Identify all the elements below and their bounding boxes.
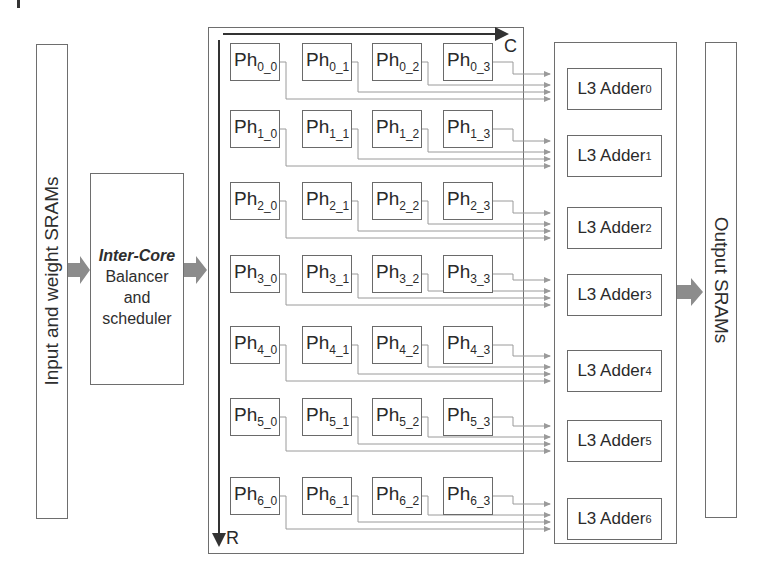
balancer-line2: and xyxy=(90,287,184,308)
ph-cell-prefix: Ph xyxy=(376,188,399,209)
l3-adder-1: L3 Adder1 xyxy=(567,135,662,177)
ph-cell-prefix: Ph xyxy=(447,116,470,137)
ph-cell-prefix: Ph xyxy=(306,332,329,353)
ph-cell-prefix: Ph xyxy=(447,483,470,504)
balancer-line3: scheduler xyxy=(90,308,184,329)
ph-cell-index: 4_1 xyxy=(329,343,349,357)
ph-cell-index: 5_2 xyxy=(399,415,419,429)
ph-cell-index: 5_3 xyxy=(470,415,490,429)
ph-cell-index: 3_0 xyxy=(257,272,277,286)
ph-cell-6-2: Ph6_2 xyxy=(372,477,422,515)
l3-adder-2: L3 Adder2 xyxy=(567,207,662,249)
ph-cell-index: 6_2 xyxy=(399,494,419,508)
arrow-adders-to-output xyxy=(677,278,703,306)
input-sram-label: Input and weight SRAMs xyxy=(41,176,63,385)
ph-cell-3-0: Ph3_0 xyxy=(230,255,280,293)
l3-adder-5: L3 Adder5 xyxy=(567,420,662,462)
ph-cell-0-2: Ph0_2 xyxy=(372,43,422,81)
ph-cell-index: 2_1 xyxy=(329,199,349,213)
ph-cell-index: 4_0 xyxy=(257,343,277,357)
ph-cell-prefix: Ph xyxy=(234,261,257,282)
column-axis-label: C xyxy=(504,36,517,57)
adder-index: 2 xyxy=(645,222,651,234)
ph-cell-6-1: Ph6_1 xyxy=(302,477,352,515)
adder-label: L3 Adder xyxy=(577,285,645,305)
ph-cell-prefix: Ph xyxy=(447,49,470,70)
ph-cell-3-1: Ph3_1 xyxy=(302,255,352,293)
output-sram-label: Output SRAMs xyxy=(710,217,732,344)
ph-cell-index: 1_2 xyxy=(399,127,419,141)
ph-cell-prefix: Ph xyxy=(376,49,399,70)
ph-cell-1-1: Ph1_1 xyxy=(302,110,352,148)
ph-cell-prefix: Ph xyxy=(234,188,257,209)
ph-cell-index: 0_0 xyxy=(257,60,277,74)
ph-cell-index: 6_3 xyxy=(470,494,490,508)
ph-cell-prefix: Ph xyxy=(376,404,399,425)
ph-cell-2-0: Ph2_0 xyxy=(230,182,280,220)
adder-index: 3 xyxy=(645,289,651,301)
l3-adder-6: L3 Adder6 xyxy=(567,498,662,540)
corner-mark xyxy=(17,0,20,8)
ph-cell-prefix: Ph xyxy=(234,49,257,70)
ph-cell-prefix: Ph xyxy=(376,261,399,282)
ph-cell-prefix: Ph xyxy=(306,49,329,70)
ph-cell-prefix: Ph xyxy=(447,261,470,282)
ph-cell-index: 2_2 xyxy=(399,199,419,213)
ph-cell-index: 2_0 xyxy=(257,199,277,213)
ph-cell-prefix: Ph xyxy=(234,332,257,353)
ph-cell-prefix: Ph xyxy=(376,116,399,137)
ph-cell-prefix: Ph xyxy=(234,404,257,425)
ph-cell-index: 1_0 xyxy=(257,127,277,141)
ph-cell-index: 0_2 xyxy=(399,60,419,74)
balancer-label: Inter-Core Balancer and scheduler xyxy=(90,245,184,329)
ph-cell-4-2: Ph4_2 xyxy=(372,326,422,364)
arrow-input-to-balancer xyxy=(68,256,90,284)
ph-cell-0-0: Ph0_0 xyxy=(230,43,280,81)
ph-cell-prefix: Ph xyxy=(447,404,470,425)
ph-cell-2-2: Ph2_2 xyxy=(372,182,422,220)
ph-cell-index: 2_3 xyxy=(470,199,490,213)
ph-cell-0-1: Ph0_1 xyxy=(302,43,352,81)
adder-label: L3 Adder xyxy=(577,146,645,166)
ph-cell-5-3: Ph5_3 xyxy=(443,398,493,436)
ph-cell-index: 6_0 xyxy=(257,494,277,508)
ph-cell-prefix: Ph xyxy=(306,188,329,209)
ph-cell-index: 3_3 xyxy=(470,272,490,286)
ph-cell-index: 3_2 xyxy=(399,272,419,286)
adder-label: L3 Adder xyxy=(577,361,645,381)
balancer-title: Inter-Core xyxy=(90,245,184,266)
ph-cell-index: 4_2 xyxy=(399,343,419,357)
ph-cell-index: 0_1 xyxy=(329,60,349,74)
ph-cell-2-1: Ph2_1 xyxy=(302,182,352,220)
adder-label: L3 Adder xyxy=(577,509,645,529)
adder-label: L3 Adder xyxy=(577,79,645,99)
arrow-balancer-to-grid xyxy=(184,256,207,284)
ph-cell-1-2: Ph1_2 xyxy=(372,110,422,148)
ph-cell-0-3: Ph0_3 xyxy=(443,43,493,81)
ph-cell-prefix: Ph xyxy=(234,483,257,504)
ph-cell-5-2: Ph5_2 xyxy=(372,398,422,436)
l3-adder-4: L3 Adder4 xyxy=(567,350,662,392)
l3-adder-0: L3 Adder0 xyxy=(567,68,662,110)
ph-cell-2-3: Ph2_3 xyxy=(443,182,493,220)
ph-cell-prefix: Ph xyxy=(447,188,470,209)
ph-cell-index: 5_1 xyxy=(329,415,349,429)
ph-cell-4-1: Ph4_1 xyxy=(302,326,352,364)
ph-cell-prefix: Ph xyxy=(306,116,329,137)
ph-cell-index: 4_3 xyxy=(470,343,490,357)
ph-cell-5-1: Ph5_1 xyxy=(302,398,352,436)
ph-cell-index: 1_3 xyxy=(470,127,490,141)
ph-cell-prefix: Ph xyxy=(306,483,329,504)
ph-cell-4-3: Ph4_3 xyxy=(443,326,493,364)
ph-cell-prefix: Ph xyxy=(447,332,470,353)
ph-cell-3-2: Ph3_2 xyxy=(372,255,422,293)
ph-cell-4-0: Ph4_0 xyxy=(230,326,280,364)
balancer-line1: Balancer xyxy=(90,266,184,287)
ph-cell-prefix: Ph xyxy=(306,404,329,425)
ph-cell-6-3: Ph6_3 xyxy=(443,477,493,515)
adder-index: 6 xyxy=(645,513,651,525)
l3-adder-3: L3 Adder3 xyxy=(567,274,662,316)
ph-cell-prefix: Ph xyxy=(234,116,257,137)
ph-cell-1-3: Ph1_3 xyxy=(443,110,493,148)
ph-cell-6-0: Ph6_0 xyxy=(230,477,280,515)
